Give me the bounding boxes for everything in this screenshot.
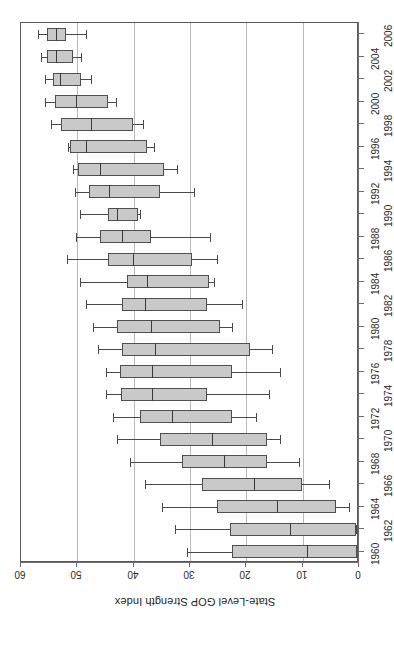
whisker-cap-lower bbox=[140, 210, 141, 219]
category-axis-tick bbox=[359, 33, 364, 34]
median-line bbox=[254, 478, 255, 491]
median-line bbox=[224, 455, 225, 468]
category-axis-tick bbox=[359, 258, 364, 259]
category-axis-label: 1990 bbox=[383, 205, 394, 227]
category-axis-label: 1976 bbox=[370, 363, 381, 385]
whisker-cap-upper bbox=[86, 300, 87, 309]
median-line bbox=[133, 253, 134, 266]
value-axis-tick bbox=[189, 562, 190, 567]
category-axis-tick bbox=[359, 438, 364, 439]
whisker-cap-upper bbox=[106, 368, 107, 377]
median-line bbox=[152, 388, 153, 401]
category-axis-tick bbox=[359, 483, 364, 484]
whisker-cap-upper bbox=[41, 53, 42, 62]
whisker-cap-upper bbox=[98, 345, 99, 354]
category-axis-tick bbox=[359, 56, 364, 57]
median-line bbox=[152, 365, 153, 378]
category-axis-label: 1980 bbox=[370, 318, 381, 340]
box-iqr bbox=[61, 118, 133, 131]
whisker-cap-lower bbox=[269, 390, 270, 399]
category-axis-tick bbox=[359, 78, 364, 79]
box-iqr bbox=[78, 163, 164, 176]
category-axis-label: 1982 bbox=[383, 295, 394, 317]
whisker-cap-upper bbox=[162, 503, 163, 512]
value-axis-title: State-Level GOP Strength Index bbox=[60, 596, 330, 608]
value-axis-tick-label: 10 bbox=[289, 569, 315, 580]
category-axis-label: 1996 bbox=[370, 138, 381, 160]
whisker-cap-lower bbox=[143, 120, 144, 129]
category-axis-tick bbox=[359, 348, 364, 349]
category-axis-tick bbox=[359, 461, 364, 462]
category-axis-tick bbox=[359, 213, 364, 214]
whisker-cap-upper bbox=[68, 143, 69, 152]
whisker-cap-lower bbox=[232, 323, 233, 332]
whisker-cap-lower bbox=[280, 435, 281, 444]
median-line bbox=[56, 28, 57, 41]
category-axis-label: 1992 bbox=[370, 183, 381, 205]
box-iqr bbox=[140, 410, 231, 423]
box-iqr bbox=[108, 253, 193, 266]
value-axis-tick-label: 0 bbox=[345, 569, 371, 580]
median-line bbox=[155, 343, 156, 356]
box-iqr bbox=[100, 230, 151, 243]
box-iqr bbox=[108, 208, 138, 221]
category-axis-label: 1962 bbox=[383, 520, 394, 542]
category-axis-label: 1964 bbox=[370, 498, 381, 520]
category-axis-label: 2004 bbox=[370, 48, 381, 70]
value-axis-tick bbox=[302, 562, 303, 567]
category-axis-label: 2000 bbox=[370, 93, 381, 115]
value-axis-tick-label: 20 bbox=[232, 569, 258, 580]
whisker-cap-lower bbox=[177, 165, 178, 174]
whisker-cap-upper bbox=[117, 435, 118, 444]
value-axis-tick-label: 50 bbox=[63, 569, 89, 580]
category-axis-label: 1986 bbox=[383, 250, 394, 272]
category-axis-tick bbox=[359, 528, 364, 529]
whisker-cap-upper bbox=[73, 165, 74, 174]
whisker-cap-lower bbox=[217, 255, 218, 264]
whisker-cap-lower bbox=[86, 30, 87, 39]
whisker-cap-lower bbox=[81, 53, 82, 62]
category-axis-label: 1978 bbox=[383, 340, 394, 362]
median-line bbox=[91, 118, 92, 131]
value-axis-tick bbox=[76, 562, 77, 567]
value-axis-tick-label: 60 bbox=[7, 569, 33, 580]
whisker-cap-lower bbox=[91, 75, 92, 84]
whisker-cap-upper bbox=[175, 525, 176, 534]
box-iqr bbox=[160, 433, 266, 446]
whisker-cap-upper bbox=[75, 188, 76, 197]
category-axis-label: 2002 bbox=[383, 70, 394, 92]
category-axis-label: 1972 bbox=[370, 408, 381, 430]
whisker-cap-upper bbox=[106, 390, 107, 399]
whisker-cap-lower bbox=[299, 458, 300, 467]
box-iqr bbox=[70, 140, 147, 153]
category-axis-label: 1970 bbox=[383, 430, 394, 452]
category-axis-label: 1988 bbox=[370, 228, 381, 250]
median-line bbox=[145, 298, 146, 311]
whisker-cap-lower bbox=[256, 413, 257, 422]
median-line bbox=[290, 523, 291, 536]
whisker-cap-lower bbox=[349, 503, 350, 512]
value-axis-tick bbox=[20, 562, 21, 567]
whisker-cap-lower bbox=[194, 188, 195, 197]
whisker-cap-upper bbox=[67, 255, 68, 264]
median-line bbox=[109, 185, 110, 198]
box-iqr bbox=[232, 545, 358, 558]
whisker-cap-upper bbox=[80, 210, 81, 219]
median-line bbox=[147, 275, 148, 288]
box-iqr bbox=[55, 95, 108, 108]
whisker-cap-lower bbox=[329, 480, 330, 489]
category-axis-tick bbox=[359, 551, 364, 552]
category-axis-label: 1960 bbox=[370, 543, 381, 565]
whisker-cap-lower bbox=[272, 345, 273, 354]
whisker-cap-lower bbox=[210, 233, 211, 242]
median-line bbox=[56, 50, 57, 63]
plot-panel bbox=[20, 22, 358, 562]
median-line bbox=[117, 208, 118, 221]
whisker-cap-upper bbox=[187, 548, 188, 557]
whisker-cap-upper bbox=[38, 30, 39, 39]
median-line bbox=[76, 95, 77, 108]
whisker-cap-lower bbox=[116, 98, 117, 107]
median-line bbox=[307, 545, 308, 558]
category-axis-label: 1966 bbox=[383, 475, 394, 497]
